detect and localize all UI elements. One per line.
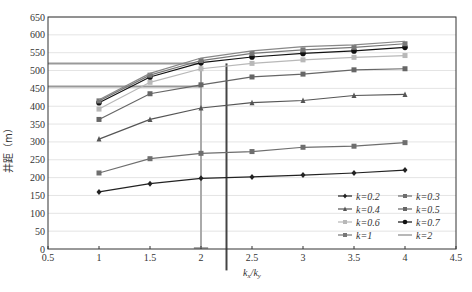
svg-text:k=0.3: k=0.3 bbox=[416, 191, 440, 202]
svg-text:k=0.6: k=0.6 bbox=[356, 217, 380, 228]
svg-text:k=0.4: k=0.4 bbox=[356, 204, 380, 215]
x-tick-label: 4 bbox=[403, 252, 408, 263]
svg-text:k=0.2: k=0.2 bbox=[356, 191, 380, 202]
y-axis-ticks: 050100150200250300350400450500550600650 bbox=[30, 12, 45, 255]
y-tick-label: 600 bbox=[30, 29, 45, 40]
y-tick-label: 550 bbox=[30, 47, 45, 58]
series-k-0-5 bbox=[97, 66, 408, 122]
gridlines bbox=[48, 17, 456, 231]
y-tick-label: 350 bbox=[30, 119, 45, 130]
legend-item: k=0.2 bbox=[338, 191, 380, 202]
svg-text:k=0.5: k=0.5 bbox=[416, 204, 440, 215]
x-tick-label: 2 bbox=[199, 252, 204, 263]
y-tick-label: 50 bbox=[35, 226, 45, 237]
x-tick-label: 0.5 bbox=[42, 252, 55, 263]
y-tick-label: 500 bbox=[30, 65, 45, 76]
legend: k=0.2k=0.3k=0.4k=0.5k=0.6k=0.7k=1k=2 bbox=[338, 191, 441, 241]
x-tick-label: 3.5 bbox=[348, 252, 361, 263]
x-tick-label: 2.5 bbox=[246, 252, 259, 263]
y-tick-label: 250 bbox=[30, 154, 45, 165]
reference-lines bbox=[48, 63, 227, 270]
svg-text:k=0.7: k=0.7 bbox=[416, 217, 441, 228]
series-k-0-4 bbox=[97, 91, 408, 141]
x-axis-label: kx/ky bbox=[243, 267, 262, 280]
y-tick-label: 400 bbox=[30, 101, 45, 112]
legend-item: k=0.3 bbox=[398, 191, 440, 202]
x-tick-label: 1.5 bbox=[144, 252, 157, 263]
y-tick-label: 450 bbox=[30, 83, 45, 94]
x-tick-label: 1 bbox=[97, 252, 102, 263]
y-tick-label: 300 bbox=[30, 136, 45, 147]
x-tick-label: 4.5 bbox=[450, 252, 463, 263]
series-k-0-3 bbox=[97, 140, 408, 175]
svg-text:k=1: k=1 bbox=[356, 230, 372, 241]
x-tick-label: 3 bbox=[301, 252, 306, 263]
svg-text:k=2: k=2 bbox=[416, 230, 432, 241]
y-tick-label: 650 bbox=[30, 12, 45, 23]
y-tick-label: 200 bbox=[30, 172, 45, 183]
chart: 050100150200250300350400450500550600650 … bbox=[0, 0, 472, 292]
y-tick-label: 150 bbox=[30, 190, 45, 201]
y-tick-label: 100 bbox=[30, 208, 45, 219]
legend-item: k=0.6 bbox=[338, 217, 380, 228]
y-axis-label: 井距（m） bbox=[2, 123, 14, 173]
legend-item: k=0.7 bbox=[398, 217, 441, 228]
